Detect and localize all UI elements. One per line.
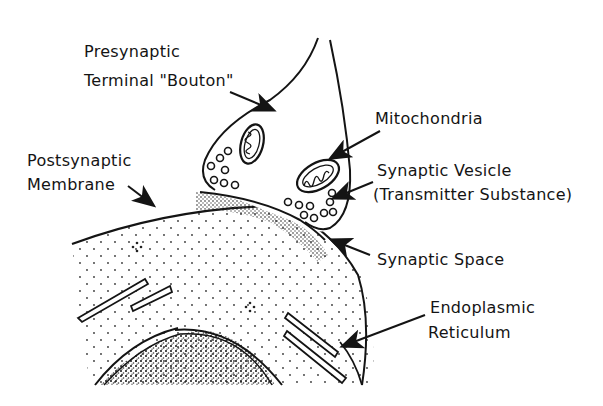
label-presynaptic-1: Presynaptic bbox=[84, 42, 180, 61]
label-er-2: Reticulum bbox=[428, 323, 511, 342]
arrow-postsynaptic bbox=[128, 186, 153, 205]
label-synaptic-space: Synaptic Space bbox=[377, 250, 504, 269]
label-postsynaptic-1: Postsynaptic bbox=[27, 151, 132, 170]
label-er-1: Endoplasmic bbox=[430, 298, 535, 317]
label-postsynaptic-2: Membrane bbox=[27, 175, 115, 194]
label-presynaptic-2: Terminal "Bouton" bbox=[83, 71, 234, 90]
label-mitochondria: Mitochondria bbox=[375, 109, 483, 128]
synapse-diagram: Presynaptic Terminal "Bouton" Mitochondr… bbox=[0, 0, 603, 406]
label-vesicle-2: (Transmitter Substance) bbox=[373, 185, 572, 204]
label-vesicle-1: Synaptic Vesicle bbox=[377, 161, 512, 180]
